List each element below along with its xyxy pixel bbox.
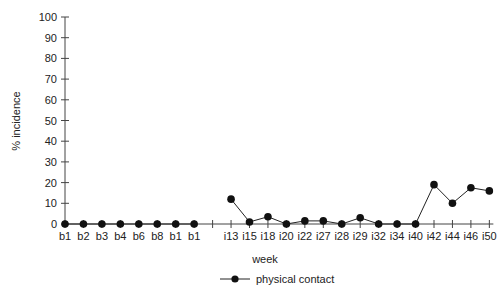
x-tick-label: i20 (279, 230, 294, 242)
data-point (283, 220, 291, 228)
y-tick-label: 20 (45, 177, 57, 189)
y-tick-label: 70 (45, 73, 57, 85)
data-point (61, 220, 69, 228)
data-point (467, 184, 475, 192)
y-tick-label: 30 (45, 156, 57, 168)
x-tick-label: b6 (133, 230, 145, 242)
data-point (393, 220, 401, 228)
x-tick-label: i44 (445, 230, 460, 242)
data-point (98, 220, 106, 228)
data-point (412, 220, 420, 228)
data-point (117, 220, 125, 228)
data-point (356, 214, 364, 222)
x-axis: b1b2b3b4b6b8b1b1i13i15i18i20i22i27i28i29… (59, 220, 497, 242)
data-point (246, 218, 254, 226)
data-point (375, 220, 383, 228)
y-tick-label: 80 (45, 52, 57, 64)
data-point (135, 220, 143, 228)
y-axis: 0102030405060708090100 (39, 11, 69, 230)
y-tick-label: 60 (45, 94, 57, 106)
x-tick-label: i13 (224, 230, 239, 242)
data-point (80, 220, 88, 228)
x-tick-label: i18 (261, 230, 276, 242)
y-tick-label: 10 (45, 197, 57, 209)
data-point (153, 220, 161, 228)
x-tick-label: i40 (408, 230, 423, 242)
x-tick-label: i27 (316, 230, 331, 242)
data-point (486, 187, 494, 195)
x-tick-label: i50 (482, 230, 497, 242)
x-tick-label: i32 (371, 230, 386, 242)
data-point (449, 200, 457, 208)
data-point (264, 213, 272, 221)
y-tick-label: 0 (51, 218, 57, 230)
y-tick-label: 50 (45, 115, 57, 127)
x-tick-label: i15 (242, 230, 257, 242)
legend: physical contact (220, 273, 334, 285)
y-tick-label: 90 (45, 32, 57, 44)
x-tick-label: i46 (464, 230, 479, 242)
x-tick-label: b1 (188, 230, 200, 242)
data-point (190, 220, 198, 228)
x-tick-label: b3 (96, 230, 108, 242)
y-axis-title: % incidence (10, 91, 22, 150)
x-tick-label: i42 (427, 230, 442, 242)
legend-label: physical contact (256, 273, 334, 285)
legend-line-marker-icon (220, 274, 250, 284)
data-point (301, 217, 309, 225)
x-tick-label: i29 (353, 230, 368, 242)
x-tick-label: i34 (390, 230, 405, 242)
data-point (172, 220, 180, 228)
x-tick-label: i22 (298, 230, 313, 242)
series-physical-contact (61, 181, 493, 228)
x-tick-label: b1 (170, 230, 182, 242)
line-chart: 0102030405060708090100 b1b2b3b4b6b8b1b1i… (0, 0, 504, 298)
x-tick-label: b4 (114, 230, 126, 242)
y-tick-label: 40 (45, 135, 57, 147)
data-point (227, 195, 235, 203)
x-tick-label: b8 (151, 230, 163, 242)
x-tick-label: b1 (59, 230, 71, 242)
x-tick-label: i28 (334, 230, 349, 242)
data-point (320, 217, 328, 225)
x-axis-title: week (251, 253, 278, 265)
x-tick-label: b2 (77, 230, 89, 242)
y-tick-label: 100 (39, 11, 57, 23)
data-point (430, 181, 438, 189)
data-point (338, 220, 346, 228)
